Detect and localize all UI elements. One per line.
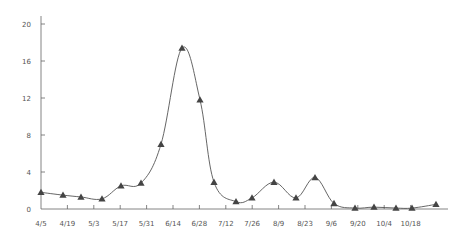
- triangle-marker-icon: [248, 194, 255, 200]
- x-tick-label: 4/5: [35, 220, 46, 228]
- triangle-marker-icon: [210, 179, 217, 185]
- y-tick-label: 8: [27, 132, 31, 140]
- triangle-marker-icon: [98, 195, 105, 201]
- x-tick-label: 9/6: [326, 220, 338, 228]
- y-axis: 048121620: [22, 16, 45, 214]
- x-tick-label: 6/28: [192, 220, 208, 228]
- x-tick-label: 4/19: [60, 220, 76, 228]
- triangle-marker-icon: [311, 174, 318, 180]
- triangle-marker-icon: [157, 141, 164, 147]
- triangle-marker-icon: [270, 179, 277, 185]
- triangle-marker-icon: [37, 189, 44, 195]
- y-tick-label: 0: [27, 206, 31, 214]
- triangle-marker-icon: [178, 44, 185, 50]
- x-tick-label: 7/12: [218, 220, 234, 228]
- x-tick-label: 8/9: [273, 220, 284, 228]
- x-tick-label: 5/31: [139, 220, 155, 228]
- y-tick-label: 4: [27, 169, 32, 177]
- x-tick-label: 5/17: [112, 220, 128, 228]
- x-tick-label: 10/4: [376, 220, 392, 228]
- data-markers: [37, 44, 439, 210]
- triangle-marker-icon: [432, 201, 439, 207]
- x-tick-label: 6/14: [165, 220, 181, 228]
- y-tick-label: 16: [22, 58, 31, 66]
- y-tick-label: 20: [22, 21, 31, 29]
- x-tick-label: 5/3: [88, 220, 99, 228]
- y-tick-label: 12: [22, 95, 31, 103]
- x-axis: 4/54/195/35/175/316/146/287/127/268/98/2…: [35, 205, 448, 228]
- line-chart: 048121620 4/54/195/35/175/316/146/287/12…: [0, 0, 473, 246]
- triangle-marker-icon: [196, 96, 203, 102]
- x-tick-label: 7/26: [244, 220, 260, 228]
- x-tick-label: 9/20: [350, 220, 366, 228]
- triangle-marker-icon: [370, 204, 377, 210]
- series-line: [41, 47, 436, 209]
- x-tick-label: 10/18: [401, 220, 421, 228]
- x-tick-label: 8/23: [297, 220, 313, 228]
